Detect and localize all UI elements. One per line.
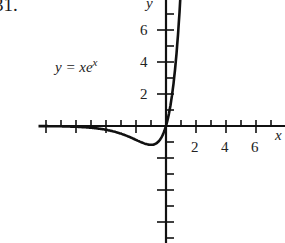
x-axis-label: x [274,127,282,143]
x-tick-label-6: 6 [251,139,259,155]
chart: 2 4 6 x 6 4 2 y y = xex [0,0,285,243]
y-tick-label-2: 2 [140,86,148,102]
y-tick-label-6: 6 [140,22,148,38]
x-tick-label-4: 4 [221,139,229,155]
y-tick-label-4: 4 [140,54,148,70]
x-tick-label-2: 2 [191,139,199,155]
y-axis-label: y [144,0,153,11]
equation-annotation: y = xex [53,56,98,75]
axes [40,0,285,243]
